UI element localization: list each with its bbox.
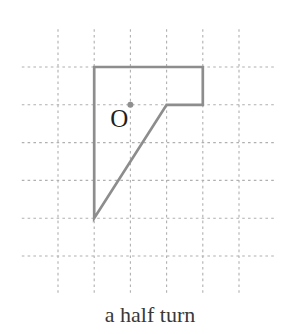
grid-lines [22, 29, 275, 294]
rotation-center-label: O [110, 105, 128, 132]
diagram-svg: O a half turn [0, 0, 284, 334]
figure: O a half turn [0, 0, 284, 334]
caption: a half turn [105, 302, 195, 327]
